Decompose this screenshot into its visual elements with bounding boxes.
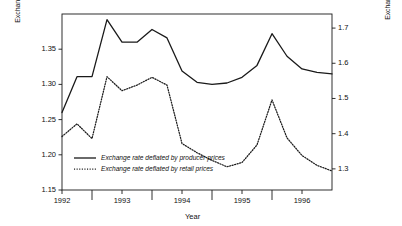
y-axis-right-tick-label: 1.5: [338, 93, 348, 102]
x-axis-tick-label: 1996: [291, 196, 313, 205]
y-axis-right-tick-label: 1.3: [338, 164, 348, 173]
y-axis-right-tick-label: 1.4: [338, 129, 348, 138]
y-axis-left-tick-label: 1.15: [32, 185, 56, 194]
y-axis-left-tick-label: 1.35: [32, 44, 56, 53]
x-axis-title: Year: [185, 212, 200, 221]
x-axis-tick-label: 1993: [111, 196, 133, 205]
x-axis-tick-label: 1992: [51, 196, 73, 205]
y-axis-left-tick-label: 1.20: [32, 150, 56, 159]
legend-label: Exchange rate deflated by retail prices: [101, 165, 213, 172]
legend-label: Exchange rate deflated by producer price…: [101, 154, 225, 161]
y-axis-left-tick-label: 1.30: [32, 79, 56, 88]
chart-figure: Exchange rate deflated by retail prices …: [0, 0, 402, 226]
plot-canvas: [0, 0, 402, 226]
y-axis-right-tick-label: 1.7: [338, 23, 348, 32]
y-axis-right-tick-label: 1.6: [338, 58, 348, 67]
x-axis-tick-label: 1995: [231, 196, 253, 205]
series-line-producer-prices: [62, 20, 332, 113]
x-axis-tick-label: 1994: [171, 196, 193, 205]
y-axis-left-tick-label: 1.25: [32, 115, 56, 124]
